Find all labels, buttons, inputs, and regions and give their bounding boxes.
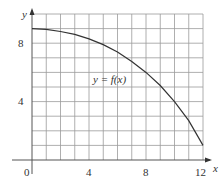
function-graph: 0 4 8 12 4 8 x y y = f(x) [0,0,224,185]
y-axis-arrow-icon [30,8,35,15]
curve-label: y = f(x) [92,73,126,86]
x-axis-label: x [212,162,218,174]
axes [12,8,212,174]
y-tick-8: 8 [18,37,24,49]
y-axis-label: y [21,8,27,20]
x-tick-4: 4 [86,166,92,178]
x-tick-12: 12 [195,166,206,178]
y-tick-4: 4 [18,95,24,107]
x-axis-arrow-icon [205,158,212,163]
grid-lines [32,14,203,160]
x-tick-8: 8 [143,166,149,178]
origin-label: 0 [24,166,30,178]
